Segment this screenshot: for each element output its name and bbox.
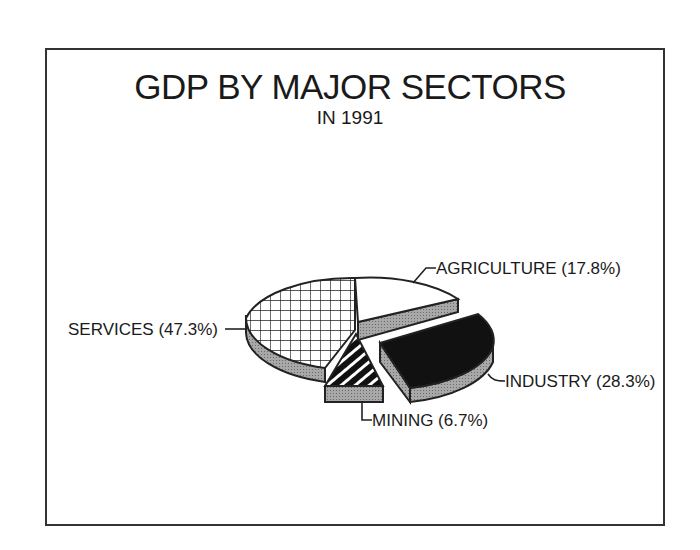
label-industry: INDUSTRY (28.3%)	[505, 372, 656, 392]
label-mining: MINING (6.7%)	[372, 411, 488, 431]
label-services: SERVICES (47.3%)	[68, 320, 218, 340]
label-agriculture: AGRICULTURE (17.8%)	[436, 259, 621, 279]
